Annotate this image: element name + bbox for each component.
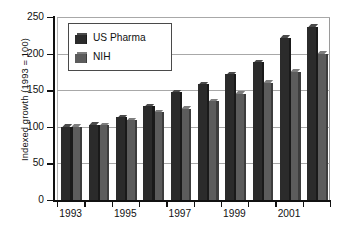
- bar-us-pharma-1997: [171, 90, 180, 200]
- x-axis-tick: [221, 201, 222, 207]
- chart-legend: US Pharma NIH: [68, 23, 172, 71]
- x-axis-tick-label: 2001: [266, 209, 312, 219]
- y-axis-tick: [47, 54, 54, 55]
- bar-us-pharma-1998: [198, 82, 207, 200]
- legend-swatch-us-pharma: [75, 33, 87, 44]
- x-axis-tick-label: 1997: [157, 209, 203, 219]
- x-axis-tick: [112, 201, 113, 207]
- y-axis-tick: [47, 90, 54, 91]
- x-axis-tick: [275, 201, 276, 207]
- x-axis-tick-label: 1999: [211, 209, 257, 219]
- y-axis-tick-label: 100: [4, 122, 44, 132]
- x-axis-tick: [57, 201, 58, 207]
- bar-chart-figure: Indexed growth (1993 = 100) 050100150200…: [0, 0, 340, 238]
- y-axis-tick-label: 50: [4, 158, 44, 168]
- legend-item-us-pharma[interactable]: US Pharma: [75, 29, 171, 48]
- x-axis-tick: [139, 201, 140, 207]
- y-axis-tick-label: 150: [4, 85, 44, 95]
- y-axis-tick-label: 250: [4, 12, 44, 22]
- y-axis-tick-label: 0: [4, 195, 44, 205]
- x-axis-tick: [166, 201, 167, 207]
- y-axis-tick-label: 200: [4, 49, 44, 59]
- y-axis-line: [53, 16, 55, 201]
- legend-item-nih[interactable]: NIH: [75, 48, 171, 67]
- y-axis-tick: [47, 200, 54, 201]
- y-axis-tick: [47, 127, 54, 128]
- bar-us-pharma-1996: [143, 104, 152, 200]
- bar-us-pharma-2001: [280, 35, 289, 200]
- bar-us-pharma-1993: [61, 124, 70, 200]
- bar-us-pharma-2000: [253, 60, 262, 200]
- plot-frame-right: [329, 17, 330, 200]
- x-axis-tick: [84, 201, 85, 207]
- x-axis-tick: [330, 201, 331, 207]
- x-axis-tick: [194, 201, 195, 207]
- y-axis-tick: [47, 17, 54, 18]
- bar-us-pharma-1995: [116, 115, 125, 200]
- legend-label-nih: NIH: [93, 52, 111, 62]
- x-axis-tick: [248, 201, 249, 207]
- bar-us-pharma-1994: [89, 122, 98, 200]
- legend-label-us-pharma: US Pharma: [93, 33, 146, 43]
- x-axis-tick-label: 1993: [48, 209, 94, 219]
- gridline: [57, 17, 330, 18]
- y-axis-tick: [47, 163, 54, 164]
- x-axis-tick-label: 1995: [102, 209, 148, 219]
- x-axis-tick: [303, 201, 304, 207]
- bar-us-pharma-1999: [225, 72, 234, 200]
- legend-swatch-nih: [75, 52, 87, 63]
- bar-us-pharma-2002: [307, 24, 316, 200]
- x-axis-line: [53, 200, 331, 202]
- plot-frame-left: [57, 17, 58, 200]
